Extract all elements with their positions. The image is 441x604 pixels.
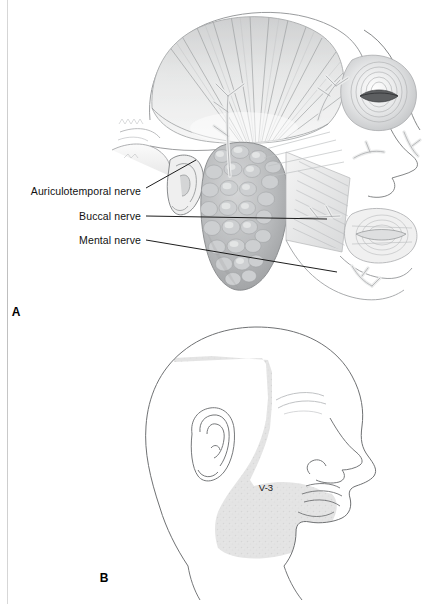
panel-b-head bbox=[146, 327, 376, 600]
nose-profile bbox=[307, 418, 362, 483]
ear-panel-b bbox=[191, 408, 234, 481]
figure-caption bbox=[18, 596, 433, 604]
v3-sensory-region bbox=[174, 356, 337, 559]
panel-b-illustration bbox=[0, 0, 441, 604]
figure-trigeminal-v3: Auriculotemporal nerve Buccal nerve Ment… bbox=[0, 0, 441, 604]
eyebrow bbox=[276, 393, 326, 408]
panel-letter-b: B bbox=[100, 571, 109, 585]
v3-region-label: V-3 bbox=[259, 482, 273, 493]
